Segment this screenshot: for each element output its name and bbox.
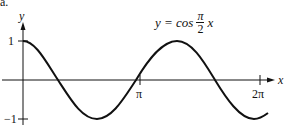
x-tick-label-2pi: 2π: [252, 88, 264, 100]
plot-area: [0, 0, 286, 128]
equation-fraction: π 2: [196, 10, 204, 35]
fraction-denominator: 2: [197, 23, 203, 35]
x-axis-arrow-icon: [267, 78, 275, 83]
corner-label: a.: [0, 0, 8, 8]
y-axis-label: y: [19, 10, 24, 22]
equation-rhs: x: [207, 15, 213, 31]
equation-lhs: y = cos: [155, 15, 193, 31]
equation-label: y = cos π 2 x: [155, 10, 213, 35]
y-axis-arrow-icon: [21, 22, 26, 30]
x-axis-label: x: [278, 74, 283, 86]
y-tick-label-1: 1: [8, 35, 14, 47]
y-tick-label-neg1: −1: [4, 113, 17, 125]
x-tick-label-pi: π: [136, 88, 142, 100]
